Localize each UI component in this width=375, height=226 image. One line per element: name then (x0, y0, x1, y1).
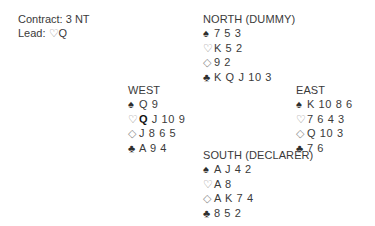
west-clubs-row: ♣A 9 4 (128, 141, 185, 156)
east-spades: K 10 8 6 (307, 98, 353, 110)
spade-icon: ♠ (203, 26, 214, 41)
north-spades: 7 5 3 (214, 27, 241, 39)
contract-info: Contract: 3 NT Lead: ♡Q (18, 12, 90, 40)
south-spades-row: ♠A J 4 2 (203, 162, 313, 177)
south-hearts-row: ♡A 8 (203, 177, 313, 192)
hand-north: NORTH (DUMMY) ♠7 5 3 ♡K 5 2 ◇9 2 ♣K Q J … (203, 12, 295, 84)
west-hearts-lead-card: Q (139, 113, 148, 125)
north-hearts-row: ♡K 5 2 (203, 41, 295, 56)
hand-west-label: WEST (128, 83, 185, 97)
east-diamonds: Q 10 3 (307, 127, 344, 139)
south-spades: A J 4 2 (214, 163, 252, 175)
heart-icon: ♡ (203, 41, 214, 56)
hand-south-label: SOUTH (DECLARER) (203, 148, 313, 162)
east-diamonds-row: ◇Q 10 3 (296, 126, 353, 141)
club-icon: ♣ (203, 206, 214, 221)
west-diamonds: J 8 6 5 (139, 127, 176, 139)
west-hearts: J 10 9 (152, 113, 186, 125)
diamond-icon: ◇ (203, 191, 214, 206)
south-diamonds: A K 7 4 (214, 192, 254, 204)
spade-icon: ♠ (128, 97, 139, 112)
west-clubs: A 9 4 (139, 142, 167, 154)
hand-west: WEST ♠Q 9 ♡Q J 10 9 ◇J 8 6 5 ♣A 9 4 (128, 83, 185, 155)
diamond-icon: ◇ (203, 55, 214, 70)
heart-icon: ♡ (203, 177, 214, 192)
north-hearts: K 5 2 (214, 42, 243, 54)
north-diamonds: 9 2 (214, 56, 231, 68)
hand-north-label: NORTH (DUMMY) (203, 12, 295, 26)
north-spades-row: ♠7 5 3 (203, 26, 295, 41)
contract-row: Contract: 3 NT (18, 12, 90, 26)
club-icon: ♣ (203, 70, 214, 85)
diamond-icon: ◇ (128, 126, 139, 141)
heart-icon: ♡ (128, 112, 139, 127)
south-clubs-row: ♣8 5 2 (203, 206, 313, 221)
hand-east-label: EAST (296, 83, 353, 97)
club-icon: ♣ (128, 141, 139, 156)
hand-south: SOUTH (DECLARER) ♠A J 4 2 ♡A 8 ◇A K 7 4 … (203, 148, 313, 220)
west-spades-row: ♠Q 9 (128, 97, 185, 112)
north-diamonds-row: ◇9 2 (203, 55, 295, 70)
south-clubs: 8 5 2 (214, 207, 241, 219)
south-hearts: A 8 (214, 178, 232, 190)
contract-value: 3 NT (66, 13, 90, 25)
hand-east: EAST ♠K 10 8 6 ♡7 6 4 3 ◇Q 10 3 ♣7 6 (296, 83, 353, 155)
south-diamonds-row: ◇A K 7 4 (203, 191, 313, 206)
heart-icon: ♡ (49, 27, 59, 39)
west-hearts-row: ♡Q J 10 9 (128, 112, 185, 127)
lead-rank: Q (59, 27, 68, 39)
east-spades-row: ♠K 10 8 6 (296, 97, 353, 112)
north-clubs: K Q J 10 3 (214, 71, 272, 83)
east-hearts: 7 6 4 3 (307, 113, 345, 125)
lead-row: Lead: ♡Q (18, 26, 90, 40)
east-hearts-row: ♡7 6 4 3 (296, 112, 353, 127)
heart-icon: ♡ (296, 112, 307, 127)
north-clubs-row: ♣K Q J 10 3 (203, 70, 295, 85)
spade-icon: ♠ (203, 162, 214, 177)
contract-label: Contract: (18, 13, 63, 25)
lead-label: Lead: (18, 27, 46, 39)
diamond-icon: ◇ (296, 126, 307, 141)
west-diamonds-row: ◇J 8 6 5 (128, 126, 185, 141)
west-spades: Q 9 (139, 98, 159, 110)
spade-icon: ♠ (296, 97, 307, 112)
